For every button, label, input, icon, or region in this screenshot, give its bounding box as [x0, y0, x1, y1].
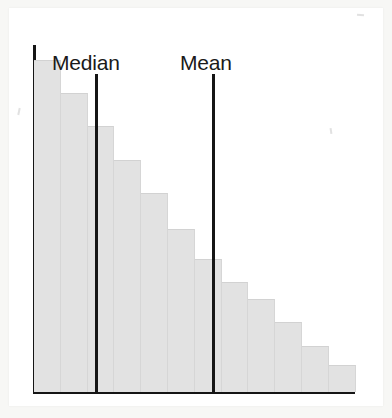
- median-marker-line: [95, 74, 98, 394]
- histogram-bars: [34, 60, 364, 392]
- histogram-bar: [141, 193, 168, 392]
- histogram-bar: [222, 282, 249, 392]
- histogram-bar: [195, 259, 222, 392]
- figure-root: Median Mean: [0, 0, 392, 418]
- histogram-bar: [34, 60, 61, 392]
- histogram-bar: [88, 126, 115, 392]
- histogram-bar: [302, 346, 329, 392]
- histogram-bar: [329, 365, 356, 392]
- histogram-bar: [61, 93, 88, 392]
- histogram-bar: [248, 299, 275, 392]
- median-label: Median: [52, 52, 120, 73]
- histogram-bar: [168, 229, 195, 392]
- histogram-plot: Median Mean: [0, 0, 392, 418]
- histogram-bar: [275, 322, 302, 392]
- histogram-bar: [114, 160, 141, 392]
- mean-marker-line: [212, 74, 215, 394]
- mean-label: Mean: [180, 52, 232, 73]
- scan-artifact-top: [357, 14, 364, 17]
- scan-artifact-left: [17, 108, 20, 115]
